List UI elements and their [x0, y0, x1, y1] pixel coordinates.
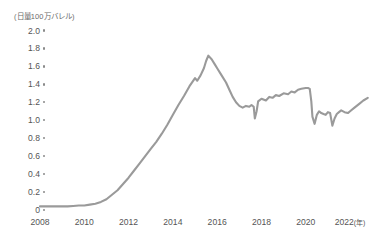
x-axis-tick-label: 2010	[75, 216, 94, 228]
y-axis-tick-label: 0	[0, 204, 40, 216]
y-axis-tick-dot	[43, 155, 45, 157]
y-axis-tick-dot	[43, 101, 45, 103]
x-axis-tick-label: 2022(年)	[335, 216, 366, 228]
y-axis-tick-label: 0.4	[0, 168, 40, 180]
y-axis-tick-dot	[43, 137, 45, 139]
y-axis-tick-dot	[43, 47, 45, 49]
x-axis-tick-label: 2018	[252, 216, 271, 228]
y-axis-tick-dot	[43, 209, 45, 211]
y-axis-tick-label: 0.2	[0, 186, 40, 198]
x-axis-tick-label: 2020	[296, 216, 315, 228]
x-axis-unit-suffix: (年)	[354, 219, 366, 226]
y-axis-tick-dot	[43, 173, 45, 175]
y-axis-tick-dot	[43, 65, 45, 67]
y-axis-tick-dot	[43, 119, 45, 121]
y-axis-tick-label: 1.2	[0, 96, 40, 108]
y-axis-tick-label: 1.8	[0, 42, 40, 54]
y-axis-tick-dot	[43, 83, 45, 85]
y-axis-tick-dot	[43, 191, 45, 193]
y-axis-tick-label: 1.6	[0, 60, 40, 72]
y-axis-unit-label: (日量100万バレル)	[14, 10, 75, 21]
x-axis-tick-label: 2012	[119, 216, 138, 228]
x-axis-tick-label: 2008	[30, 216, 49, 228]
x-axis-tick-label: 2016	[208, 216, 227, 228]
y-axis-tick-label: 1.0	[0, 114, 40, 126]
shale-oil-production-line-chart: (日量100万バレル) 2.01.81.61.41.21.00.80.60.40…	[0, 0, 377, 241]
y-axis-tick-label: 2.0	[0, 25, 40, 37]
x-axis-tick-label: 2014	[163, 216, 182, 228]
y-axis-tick-dot	[43, 29, 45, 31]
series-line-shale-oil	[40, 56, 368, 207]
y-axis-tick-label: 0.8	[0, 132, 40, 144]
y-axis-tick-label: 1.4	[0, 78, 40, 90]
plot-area	[0, 0, 377, 241]
y-axis-tick-label: 0.6	[0, 150, 40, 162]
